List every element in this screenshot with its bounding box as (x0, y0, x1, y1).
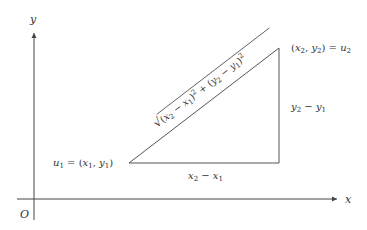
hypotenuse-label-group: √(x2 − x1)2 + (y2 − y1)2 (150, 28, 278, 131)
origin-label: O (20, 208, 29, 221)
right-triangle (129, 48, 279, 163)
horizontal-edge-label: x2 − x1 (188, 170, 223, 183)
distance-diagram: x y O u1 = (x1, y1) (x2, y2) = u2 x2 − x… (0, 0, 367, 230)
sqrt-vinculum (157, 28, 270, 114)
x-axis-label: x (345, 193, 352, 206)
point-u1-label: u1 = (x1, y1) (53, 157, 113, 170)
y-axis-label: y (29, 13, 37, 26)
hypotenuse-label: √(x2 − x1)2 + (y2 − y1)2 (150, 51, 249, 132)
point-u2-label: (x2, y2) = u2 (291, 42, 351, 55)
vertical-edge-label: y2 − y1 (290, 101, 326, 114)
